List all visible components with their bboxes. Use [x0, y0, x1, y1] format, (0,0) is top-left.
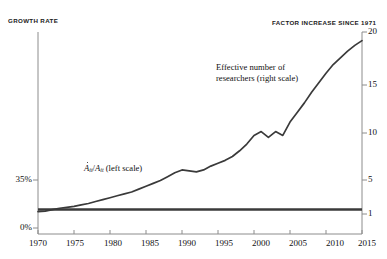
plot-area	[0, 0, 387, 259]
researchers-series-line	[38, 41, 362, 212]
chart-figure: GROWTH RATE FACTOR INCREASE SINCE 1971 3…	[0, 0, 387, 259]
x-tick-marks	[38, 230, 362, 234]
